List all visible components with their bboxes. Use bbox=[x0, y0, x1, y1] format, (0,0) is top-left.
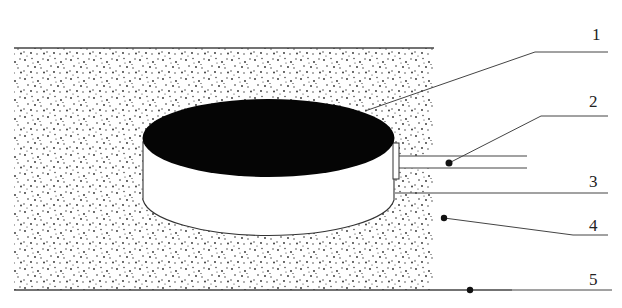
label-5: 5 bbox=[589, 270, 598, 289]
leader-line-4 bbox=[444, 218, 608, 235]
label-2: 2 bbox=[589, 92, 598, 111]
connector-block bbox=[393, 143, 399, 179]
leader-dot-2 bbox=[446, 160, 453, 167]
schematic-diagram: 1 2 3 4 5 bbox=[0, 0, 622, 308]
label-4: 4 bbox=[589, 216, 598, 235]
disc-top-surface bbox=[143, 99, 395, 177]
leader-dot-4 bbox=[441, 215, 447, 221]
pipe-body bbox=[399, 156, 527, 168]
leader-dot-5 bbox=[467, 287, 473, 293]
label-3: 3 bbox=[589, 172, 598, 191]
label-1: 1 bbox=[592, 25, 601, 44]
